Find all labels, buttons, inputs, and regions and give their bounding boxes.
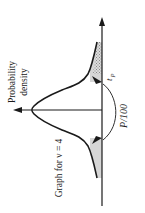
t-axis-arrowhead-icon xyxy=(99,17,105,26)
tail-area-bracket-arc xyxy=(103,84,116,140)
density-axis-arrowhead-icon xyxy=(13,107,22,113)
y-axis-label-probability: Probability xyxy=(7,61,17,103)
curve-label: Graph for ν = 4 xyxy=(54,138,64,197)
t-distribution-diagram: Probability density Graph for ν = 4 t P … xyxy=(0,0,145,213)
tail-area-label: P/100 xyxy=(118,104,129,129)
y-axis-label-density: density xyxy=(19,68,29,96)
critical-value-label-subscript: P xyxy=(109,74,116,79)
critical-value-label: t P xyxy=(104,74,116,82)
